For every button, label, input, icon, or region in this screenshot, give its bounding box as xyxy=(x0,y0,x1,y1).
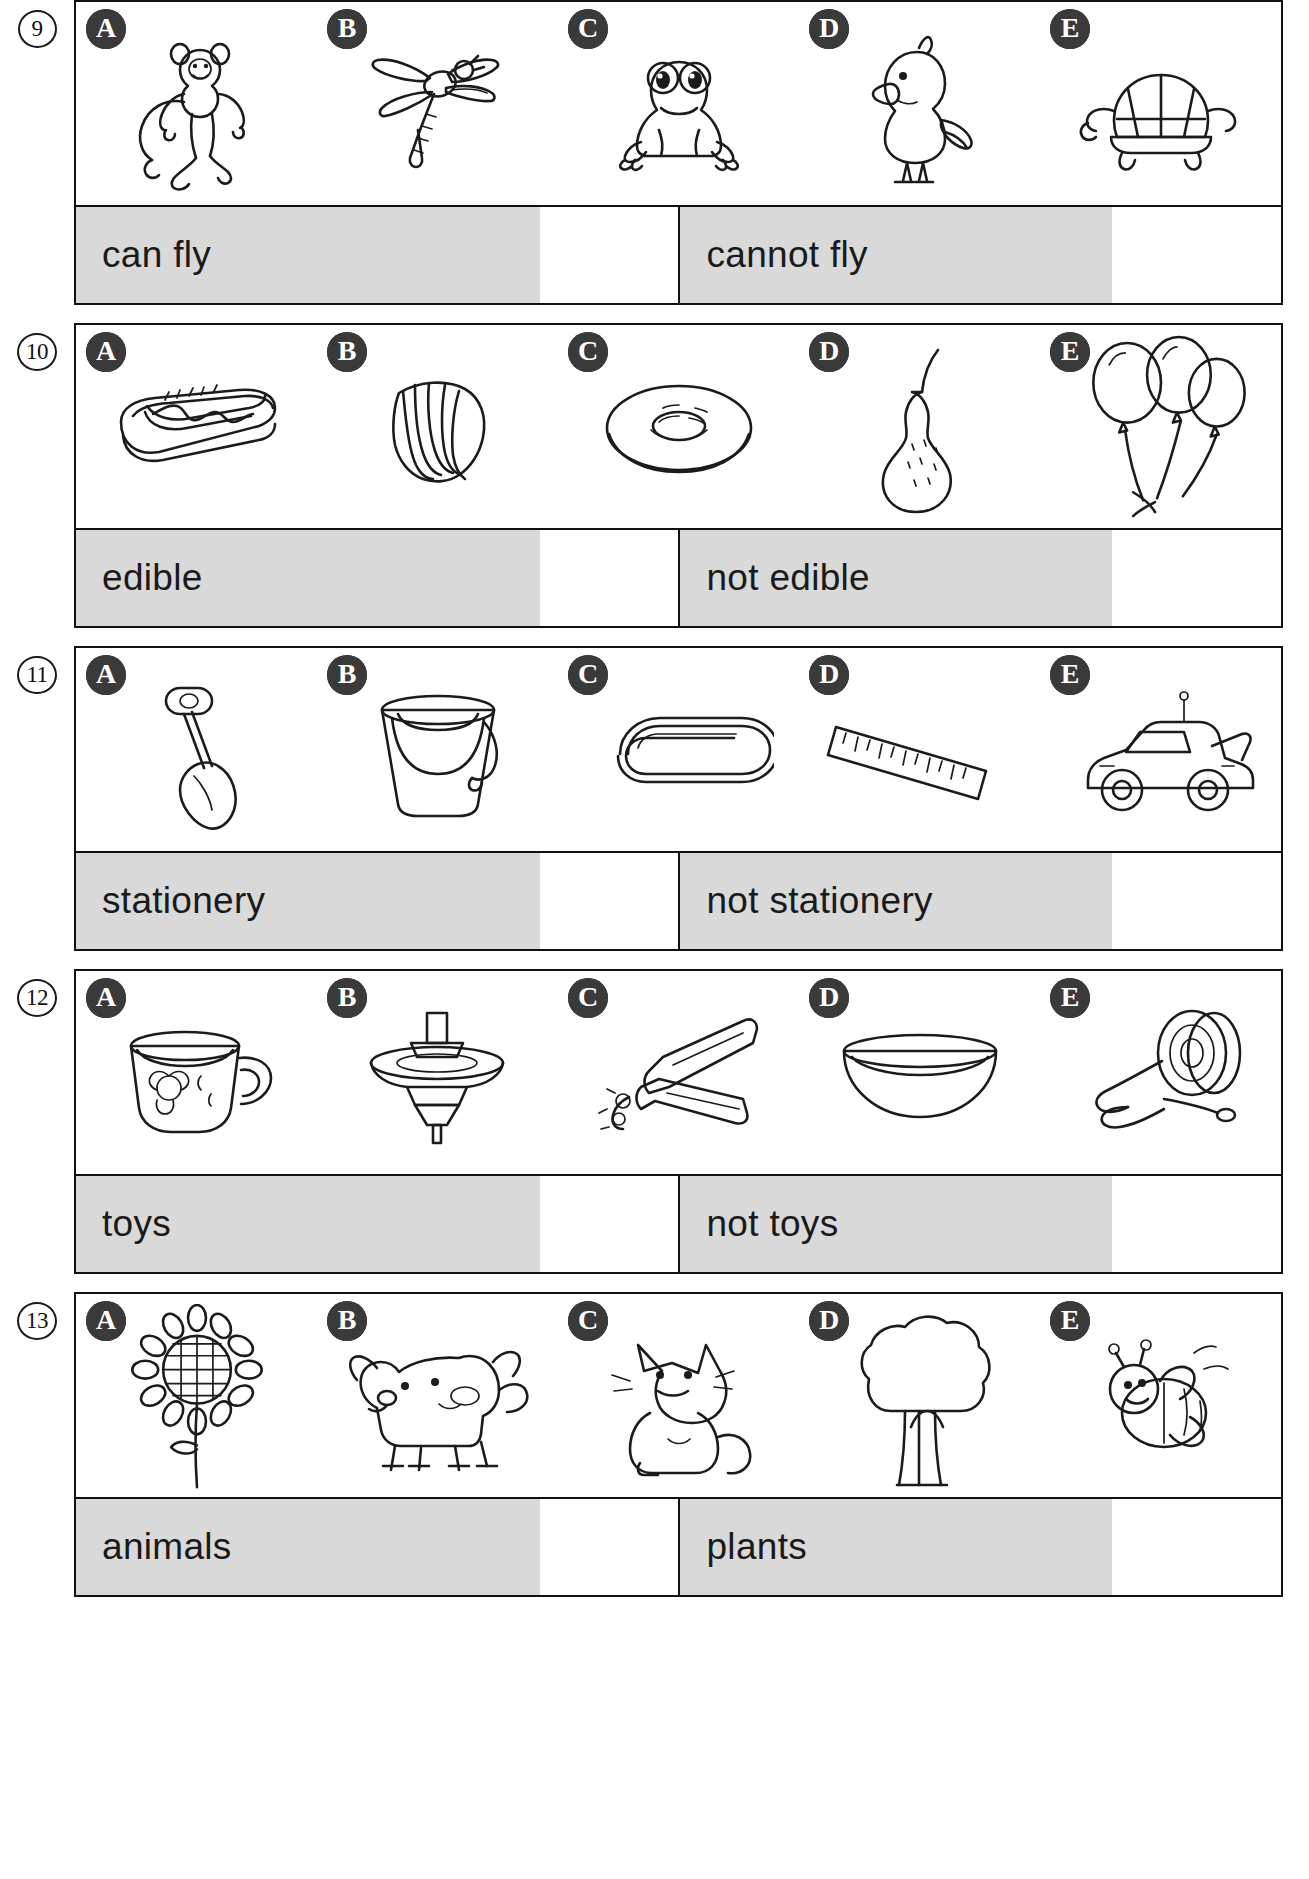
question-row: 9 A xyxy=(0,0,1309,305)
category-a-cell[interactable]: stationery xyxy=(76,853,540,949)
picture-cell[interactable]: C xyxy=(558,648,799,851)
label-strip: edible not edible xyxy=(76,530,1281,626)
option-badge-e[interactable]: E xyxy=(1050,1301,1090,1341)
category-b-cell[interactable]: not toys xyxy=(678,1176,1112,1272)
option-badge-b[interactable]: B xyxy=(327,978,367,1018)
picture-cell[interactable]: C xyxy=(558,2,799,205)
picture-strip: A B xyxy=(76,648,1281,853)
option-badge-a[interactable]: A xyxy=(86,332,126,372)
option-badge-b[interactable]: B xyxy=(327,1301,367,1341)
category-b-cell[interactable]: plants xyxy=(678,1499,1112,1595)
option-letter: D xyxy=(819,337,839,365)
picture-cell[interactable]: A xyxy=(76,648,317,851)
picture-cell[interactable]: E xyxy=(1040,1294,1281,1497)
option-badge-b[interactable]: B xyxy=(327,655,367,695)
option-badge-e[interactable]: E xyxy=(1050,332,1090,372)
question-number-badge: 12 xyxy=(17,979,57,1017)
picture-cell[interactable]: D xyxy=(799,1294,1040,1497)
option-letter: C xyxy=(578,337,598,365)
option-badge-a[interactable]: A xyxy=(86,1301,126,1341)
category-b-answer-space[interactable] xyxy=(1112,530,1281,626)
category-b-cell[interactable]: not stationery xyxy=(678,853,1112,949)
picture-cell[interactable]: A xyxy=(76,2,317,205)
question-number: 10 xyxy=(0,323,74,371)
category-a-answer-space[interactable] xyxy=(540,530,679,626)
picture-cell[interactable]: C xyxy=(558,971,799,1174)
option-badge-c[interactable]: C xyxy=(568,978,608,1018)
option-badge-d[interactable]: D xyxy=(809,655,849,695)
option-letter: C xyxy=(578,983,598,1011)
picture-cell[interactable]: C xyxy=(558,1294,799,1497)
option-letter: D xyxy=(819,983,839,1011)
option-badge-b[interactable]: B xyxy=(327,9,367,49)
option-letter: B xyxy=(338,14,357,42)
category-b-answer-space[interactable] xyxy=(1112,853,1281,949)
picture-cell[interactable]: B xyxy=(317,1294,558,1497)
option-badge-a[interactable]: A xyxy=(86,978,126,1018)
category-b-cell[interactable]: cannot fly xyxy=(678,207,1112,303)
option-badge-c[interactable]: C xyxy=(568,655,608,695)
category-a-label: toys xyxy=(102,1203,171,1245)
question-box: A B xyxy=(74,323,1283,628)
option-badge-c[interactable]: C xyxy=(568,332,608,372)
option-letter: B xyxy=(338,660,357,688)
category-b-label: not stationery xyxy=(706,880,932,922)
category-b-label: cannot fly xyxy=(706,234,867,276)
category-a-cell[interactable]: edible xyxy=(76,530,540,626)
picture-cell[interactable]: A xyxy=(76,1294,317,1497)
option-badge-a[interactable]: A xyxy=(86,655,126,695)
option-letter: E xyxy=(1061,14,1080,42)
question-number-badge: 9 xyxy=(18,10,57,48)
category-a-answer-space[interactable] xyxy=(540,1499,679,1595)
picture-cell[interactable]: C xyxy=(558,325,799,528)
question-row: 12 A xyxy=(0,969,1309,1274)
picture-cell[interactable]: A xyxy=(76,325,317,528)
category-a-cell[interactable]: can fly xyxy=(76,207,540,303)
option-letter: E xyxy=(1061,1306,1080,1334)
option-badge-e[interactable]: E xyxy=(1050,9,1090,49)
question-row: 11 A xyxy=(0,646,1309,951)
picture-cell[interactable]: D xyxy=(799,325,1040,528)
option-badge-d[interactable]: D xyxy=(809,978,849,1018)
option-badge-e[interactable]: E xyxy=(1050,978,1090,1018)
category-b-answer-space[interactable] xyxy=(1112,1176,1281,1272)
option-badge-d[interactable]: D xyxy=(809,332,849,372)
category-b-label: not edible xyxy=(706,557,869,599)
category-a-label: can fly xyxy=(102,234,211,276)
option-badge-a[interactable]: A xyxy=(86,9,126,49)
picture-cell[interactable]: B xyxy=(317,971,558,1174)
option-badge-c[interactable]: C xyxy=(568,9,608,49)
option-letter: D xyxy=(819,1306,839,1334)
question-number: 11 xyxy=(0,646,74,694)
category-b-answer-space[interactable] xyxy=(1112,1499,1281,1595)
picture-cell[interactable]: E xyxy=(1040,648,1281,851)
picture-cell[interactable]: B xyxy=(317,325,558,528)
option-letter: B xyxy=(338,337,357,365)
picture-cell[interactable]: D xyxy=(799,648,1040,851)
category-b-cell[interactable]: not edible xyxy=(678,530,1112,626)
picture-cell[interactable]: D xyxy=(799,971,1040,1174)
question-box: A xyxy=(74,0,1283,305)
picture-cell[interactable]: B xyxy=(317,2,558,205)
picture-cell[interactable]: E xyxy=(1040,2,1281,205)
picture-cell[interactable]: B xyxy=(317,648,558,851)
option-badge-b[interactable]: B xyxy=(327,332,367,372)
picture-cell[interactable]: E xyxy=(1040,971,1281,1174)
option-badge-e[interactable]: E xyxy=(1050,655,1090,695)
picture-strip: A B xyxy=(76,325,1281,530)
category-b-answer-space[interactable] xyxy=(1112,207,1281,303)
option-letter: B xyxy=(338,983,357,1011)
category-a-answer-space[interactable] xyxy=(540,207,679,303)
option-letter: E xyxy=(1061,660,1080,688)
category-a-answer-space[interactable] xyxy=(540,1176,679,1272)
option-badge-d[interactable]: D xyxy=(809,1301,849,1341)
option-badge-c[interactable]: C xyxy=(568,1301,608,1341)
picture-cell[interactable]: E xyxy=(1040,325,1281,528)
option-letter: D xyxy=(819,14,839,42)
category-a-answer-space[interactable] xyxy=(540,853,679,949)
picture-cell[interactable]: D xyxy=(799,2,1040,205)
category-a-cell[interactable]: toys xyxy=(76,1176,540,1272)
category-a-cell[interactable]: animals xyxy=(76,1499,540,1595)
option-badge-d[interactable]: D xyxy=(809,9,849,49)
picture-cell[interactable]: A xyxy=(76,971,317,1174)
